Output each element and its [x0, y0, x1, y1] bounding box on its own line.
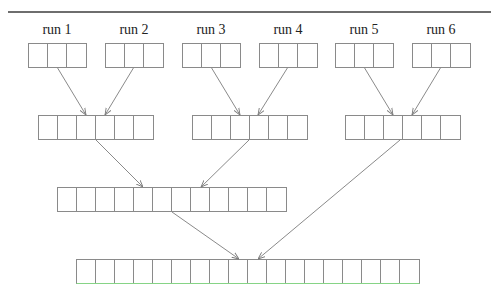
- cell: [451, 44, 470, 67]
- cell: [384, 116, 403, 139]
- run-block-5: [335, 43, 394, 68]
- cell: [269, 116, 288, 139]
- cell: [106, 44, 125, 67]
- cell: [77, 116, 96, 139]
- cell: [248, 188, 267, 211]
- cell: [96, 260, 115, 283]
- arrow-l2-1: [96, 140, 143, 187]
- cell: [58, 188, 77, 211]
- cell: [193, 116, 212, 139]
- cell: [381, 260, 400, 283]
- cell: [403, 116, 422, 139]
- cell: [144, 44, 163, 67]
- cell: [267, 260, 286, 283]
- arrow-run1: [57, 67, 86, 115]
- cell: [134, 260, 153, 283]
- run-label-3: run 3: [182, 22, 240, 38]
- cell: [248, 260, 267, 283]
- run-label-5: run 5: [335, 22, 393, 38]
- run-label-2: run 2: [105, 22, 163, 38]
- cell: [96, 188, 115, 211]
- run-block-3: [182, 43, 241, 68]
- cell: [288, 116, 307, 139]
- cell: [336, 44, 355, 67]
- cell: [346, 116, 365, 139]
- cell: [441, 116, 460, 139]
- cell: [29, 44, 48, 67]
- arrow-l3: [172, 212, 239, 259]
- cell: [48, 44, 67, 67]
- cell: [58, 116, 77, 139]
- cell: [286, 260, 305, 283]
- cell: [298, 44, 317, 67]
- cell: [374, 44, 393, 67]
- cell: [422, 116, 441, 139]
- cell: [77, 188, 96, 211]
- arrow-run4: [258, 67, 288, 115]
- cell: [115, 116, 134, 139]
- cell: [324, 260, 343, 283]
- arrow-run3: [211, 67, 240, 115]
- cell: [77, 260, 96, 283]
- run-label-6: run 6: [412, 22, 470, 38]
- arrow-run6: [412, 67, 441, 115]
- merged-block-2-2: [192, 115, 308, 140]
- cell: [96, 116, 115, 139]
- final-merged-block: [76, 259, 420, 284]
- cell: [250, 116, 269, 139]
- cell: [365, 116, 384, 139]
- top-rule: [8, 11, 491, 13]
- cell: [67, 44, 86, 67]
- run-label-1: run 1: [28, 22, 86, 38]
- cell: [115, 188, 134, 211]
- cell: [202, 44, 221, 67]
- cell: [153, 188, 172, 211]
- cell: [413, 44, 432, 67]
- cell: [343, 260, 362, 283]
- cell: [134, 116, 153, 139]
- cell: [231, 116, 250, 139]
- cell: [183, 44, 202, 67]
- cell: [432, 44, 451, 67]
- cell: [229, 188, 248, 211]
- merged-block-2-1: [38, 115, 154, 140]
- arrow-run2: [105, 67, 134, 115]
- cell: [355, 44, 374, 67]
- run-label-4: run 4: [259, 22, 317, 38]
- cell: [362, 260, 381, 283]
- cell: [172, 260, 191, 283]
- run-block-6: [412, 43, 471, 68]
- run-block-1: [28, 43, 87, 68]
- cell: [210, 188, 229, 211]
- merged-block-3: [57, 187, 287, 212]
- cell: [260, 44, 279, 67]
- cell: [39, 116, 58, 139]
- cell: [279, 44, 298, 67]
- cell: [267, 188, 286, 211]
- cell: [153, 260, 172, 283]
- cell: [172, 188, 191, 211]
- cell: [229, 260, 248, 283]
- cell: [115, 260, 134, 283]
- run-block-4: [259, 43, 318, 68]
- cell: [212, 116, 231, 139]
- cell: [210, 260, 229, 283]
- arrow-l2-2: [201, 140, 249, 187]
- cell: [191, 260, 210, 283]
- merged-block-2-3: [345, 115, 461, 140]
- arrow-run5: [364, 67, 393, 115]
- cell: [400, 260, 419, 283]
- run-block-2: [105, 43, 164, 68]
- cell: [191, 188, 210, 211]
- cell: [134, 188, 153, 211]
- cell: [221, 44, 240, 67]
- cell: [305, 260, 324, 283]
- cell: [125, 44, 144, 67]
